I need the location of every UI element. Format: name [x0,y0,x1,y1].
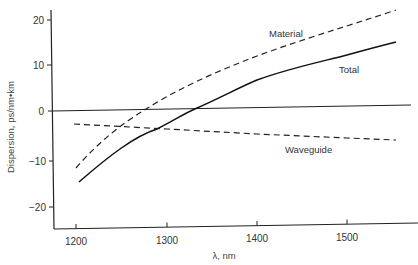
zero-line [52,105,411,111]
y-tick-label: 10 [33,60,45,71]
label-material: Material [269,28,303,39]
y-axis-title: Dispersion, ps/nm•km [5,81,16,173]
series-waveguide [74,124,396,140]
label-total: Total [339,64,359,75]
x-axis-title: λ, nm [212,250,235,261]
x-tick-label: 1200 [65,236,88,247]
y-tick-label: 0 [38,106,44,117]
y-tick-label: −20 [29,202,46,213]
x-axis [54,220,418,230]
x-tick-label: 1400 [246,233,269,244]
label-waveguide: Waveguide [285,144,332,155]
dispersion-chart: 20 10 0 −10 −20 1200 1300 1400 1500 λ, n… [0,0,418,265]
x-tick-label: 1300 [156,235,179,246]
y-axis [47,10,54,229]
y-tick-label: 20 [33,15,45,26]
x-tick-label: 1500 [336,232,359,243]
y-tick-label: −10 [29,156,46,167]
